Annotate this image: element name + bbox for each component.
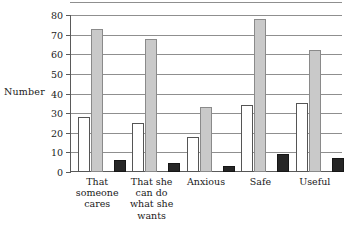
y-tick-label: 40 [51,88,63,99]
bar-grey [200,107,212,172]
bar-white [187,137,199,172]
gridline [70,54,342,55]
bar-grey [145,39,157,172]
y-tick-mark [66,172,71,173]
bar-grey [254,19,266,172]
x-axis-category-label: That someone cares [70,176,124,210]
plot-area: 01020304050607080 [70,15,342,172]
bar-black [114,160,126,172]
y-tick-label: 30 [51,108,63,119]
y-tick-mark [66,133,71,134]
y-tick-mark [66,94,71,95]
bar-grey [309,50,321,172]
gridline [70,35,342,36]
x-axis-category-label: Useful [288,176,342,187]
y-tick-mark [66,113,71,114]
y-tick-label: 80 [51,10,63,21]
bar-black [332,158,344,172]
y-axis-title: Number [4,86,45,97]
gridline [70,94,342,95]
y-tick-mark [66,15,71,16]
y-tick-label: 0 [57,167,63,178]
y-tick-mark [66,152,71,153]
bar-black [168,163,180,172]
bar-white [241,105,253,172]
x-axis-category-label: That she can do what she wants [124,176,178,221]
y-tick-label: 50 [51,68,63,79]
y-tick-label: 60 [51,49,63,60]
y-tick-label: 70 [51,29,63,40]
bar-black [223,166,235,172]
gridline [70,15,342,16]
y-tick-mark [66,54,71,55]
bar-grey [91,29,103,172]
bar-chart: Number 01020304050607080 That someone ca… [0,0,352,236]
y-tick-label: 10 [51,147,63,158]
bar-black [277,154,289,172]
y-tick-mark [66,74,71,75]
y-tick-label: 20 [51,127,63,138]
y-tick-mark [66,35,71,36]
bar-white [296,103,308,172]
bar-white [132,123,144,172]
x-axis-category-label: Anxious [179,176,233,187]
x-axis-category-label: Safe [233,176,287,187]
gridline [70,74,342,75]
bar-white [78,117,90,172]
chart-top-rule [70,2,342,3]
